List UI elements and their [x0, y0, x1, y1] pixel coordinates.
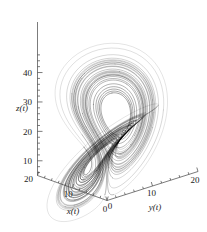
x-tick-label-20: 20 [24, 174, 34, 184]
y-minor-tick [143, 187, 144, 189]
y-minor-tick [179, 175, 180, 177]
z-tick-label-40: 40 [23, 68, 33, 78]
x-minor-tick [79, 188, 80, 190]
y-minor-tick [115, 195, 116, 197]
x-axis-label: x(t) [66, 206, 80, 216]
x-minor-tick [58, 181, 59, 183]
y-tick-label-20: 20 [191, 175, 201, 185]
x-minor-tick [100, 196, 101, 198]
z-axis-label: z(t) [15, 103, 28, 113]
y-axis-label: y(t) [148, 202, 162, 212]
phase-portrait-canvas: 102030402010020100 z(t) x(t) y(t) [0, 0, 207, 232]
y-minor-tick [134, 190, 135, 192]
z-tick-label-10: 10 [23, 156, 33, 166]
axes-lines [38, 22, 199, 201]
y-minor-tick [170, 178, 171, 180]
y-tick-20 [197, 168, 198, 172]
x-minor-tick [51, 178, 52, 180]
lorenz-attractor-figure: 102030402010020100 z(t) x(t) y(t) [0, 0, 207, 232]
x-minor-tick [44, 176, 45, 178]
y-tick-label-10: 10 [147, 188, 157, 198]
y-minor-tick [188, 172, 189, 174]
y-tick-label-0: 0 [108, 201, 113, 211]
z-tick-label-20: 20 [23, 127, 33, 137]
y-minor-tick [161, 181, 162, 183]
y-minor-tick [125, 193, 126, 195]
x-tick-label-10: 10 [64, 189, 74, 199]
y-tick-10 [151, 182, 152, 186]
